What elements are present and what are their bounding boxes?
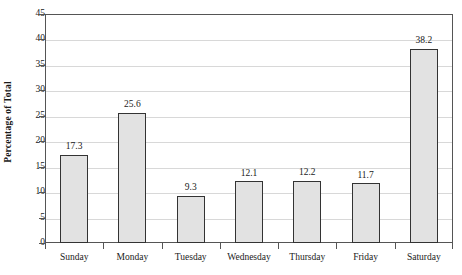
x-axis-tick-mark <box>45 243 46 249</box>
bar-value-label: 38.2 <box>416 36 433 46</box>
bar-value-label: 11.7 <box>357 171 373 181</box>
x-axis-tick-mark <box>103 243 104 249</box>
bar-value-label: 9.3 <box>185 183 197 193</box>
x-axis-tick-mark <box>336 243 337 249</box>
x-axis-category-label: Monday <box>117 253 149 263</box>
x-axis-category-label: Wednesday <box>227 253 271 263</box>
bar-group: 25.6 <box>103 14 161 243</box>
bar-group: 17.3 <box>45 14 103 243</box>
x-axis-category-label: Saturday <box>407 253 441 263</box>
x-axis-category-label: Friday <box>353 253 378 263</box>
x-axis-tick-mark <box>278 243 279 249</box>
x-axis-tick-mark <box>452 243 453 249</box>
x-axis: SundayMondayTuesdayWednesdayThursdayFrid… <box>45 243 453 275</box>
y-axis-ticks: 051015202530354045 <box>0 0 45 275</box>
x-axis-category-label: Tuesday <box>175 253 207 263</box>
bar-chart-figure: Percentage of Total 051015202530354045 1… <box>0 0 462 275</box>
x-axis-tick-mark <box>395 243 396 249</box>
bar-value-label: 17.3 <box>66 142 83 152</box>
bar-value-label: 12.2 <box>299 168 316 178</box>
x-axis-tick-mark <box>162 243 163 249</box>
bar-value-label: 12.1 <box>241 169 258 179</box>
bar[interactable] <box>293 181 321 243</box>
bar[interactable] <box>177 196 205 243</box>
bar[interactable] <box>60 155 88 243</box>
bar[interactable] <box>118 113 146 243</box>
bar[interactable] <box>235 181 263 243</box>
bar[interactable] <box>352 183 380 243</box>
bar-group: 12.1 <box>220 14 278 243</box>
bars-layer: 17.325.69.312.112.211.738.2 <box>45 14 453 243</box>
x-axis-category-label: Thursday <box>289 253 325 263</box>
bar[interactable] <box>410 49 438 243</box>
bar-group: 9.3 <box>162 14 220 243</box>
bar-group: 38.2 <box>395 14 453 243</box>
bar-value-label: 25.6 <box>124 100 141 110</box>
x-axis-category-label: Sunday <box>60 253 89 263</box>
bar-group: 12.2 <box>278 14 336 243</box>
x-axis-tick-mark <box>220 243 221 249</box>
bar-group: 11.7 <box>336 14 394 243</box>
